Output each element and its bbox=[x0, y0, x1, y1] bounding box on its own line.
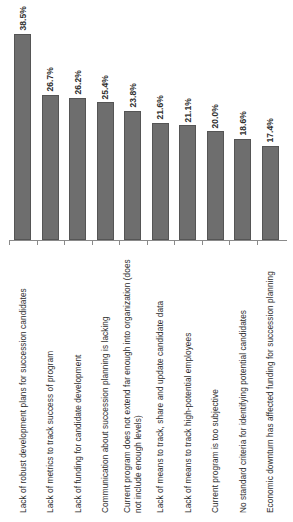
category-label-slot: Communication about succession planning … bbox=[92, 247, 120, 515]
category-label-slot: Lack of means to track high-potential em… bbox=[174, 247, 202, 515]
bar-chart: 38.5% 26.7% 26.2% 25.4% 23.8% 21.6% 21.1… bbox=[0, 0, 293, 522]
chart-left-spine bbox=[5, 6, 6, 241]
bar-group: 25.4% bbox=[92, 6, 120, 240]
bar-value-label: 26.2% bbox=[74, 70, 83, 95]
category-label-slot: No standard criteria for identifying pot… bbox=[229, 247, 257, 515]
category-label: Lack of means to track, share and update… bbox=[155, 247, 166, 513]
x-axis-ticks bbox=[9, 241, 287, 245]
bar-value-label: 18.6% bbox=[239, 111, 248, 136]
category-label: Lack of funding for candidate developmen… bbox=[73, 247, 84, 513]
category-label: Economic downturn has affected funding f… bbox=[265, 247, 276, 513]
category-label-slot: Current program is too subjective bbox=[202, 247, 230, 515]
x-tick bbox=[257, 241, 285, 245]
bar-rect bbox=[69, 98, 86, 240]
x-tick bbox=[64, 241, 92, 245]
bar-group: 23.8% bbox=[119, 6, 147, 240]
bar-group: 21.1% bbox=[174, 6, 202, 240]
x-axis-category-labels: Lack of robust development plans for suc… bbox=[9, 247, 287, 515]
x-tick bbox=[202, 241, 230, 245]
bar-group: 20.0% bbox=[202, 6, 230, 240]
category-label: Current program is too subjective bbox=[210, 247, 221, 513]
bar-value-label: 17.4% bbox=[266, 118, 275, 143]
bar-group: 21.6% bbox=[147, 6, 175, 240]
bar-value-label: 26.7% bbox=[46, 67, 55, 92]
bar-group: 17.4% bbox=[257, 6, 285, 240]
x-tick bbox=[92, 241, 120, 245]
bar-value-label: 21.1% bbox=[184, 98, 193, 123]
bar-value-label: 20.0% bbox=[211, 104, 220, 129]
category-label-slot: Lack of means to track, share and update… bbox=[147, 247, 175, 515]
bar-rect bbox=[207, 131, 224, 240]
bar-value-label: 21.6% bbox=[156, 95, 165, 120]
category-label: Lack of robust development plans for suc… bbox=[18, 247, 29, 513]
category-label-slot: Economic downturn has affected funding f… bbox=[257, 247, 285, 515]
category-label: Lack of metrics to track success of prog… bbox=[45, 247, 56, 513]
category-label-slot: Current program does not extend far enou… bbox=[119, 247, 147, 515]
bar-group: 26.7% bbox=[37, 6, 65, 240]
category-label: No standard criteria for identifying pot… bbox=[238, 247, 249, 513]
category-label: Lack of means to track high-potential em… bbox=[183, 247, 194, 513]
category-label: Current program does not extend far enou… bbox=[122, 247, 143, 513]
category-label: Communication about succession planning … bbox=[100, 247, 111, 513]
bar-rect bbox=[179, 125, 196, 240]
bar-group: 26.2% bbox=[64, 6, 92, 240]
bar-rect bbox=[262, 146, 279, 240]
bar-group: 18.6% bbox=[229, 6, 257, 240]
x-tick bbox=[147, 241, 175, 245]
bar-value-label: 38.5% bbox=[19, 6, 28, 31]
bar-rect bbox=[42, 95, 59, 240]
x-tick bbox=[37, 241, 65, 245]
category-label-slot: Lack of funding for candidate developmen… bbox=[64, 247, 92, 515]
x-tick bbox=[174, 241, 202, 245]
plot-area: 38.5% 26.7% 26.2% 25.4% 23.8% 21.6% 21.1… bbox=[9, 6, 287, 240]
bar-rect bbox=[152, 123, 169, 240]
x-tick bbox=[9, 241, 37, 245]
x-tick bbox=[119, 241, 147, 245]
bar-rect bbox=[234, 139, 251, 240]
bar-group: 38.5% bbox=[9, 6, 37, 240]
bar-rect bbox=[124, 111, 141, 240]
bar-value-label: 23.8% bbox=[129, 83, 138, 108]
x-tick bbox=[229, 241, 257, 245]
category-label-slot: Lack of robust development plans for suc… bbox=[9, 247, 37, 515]
bar-rect bbox=[14, 34, 31, 240]
category-label-slot: Lack of metrics to track success of prog… bbox=[37, 247, 65, 515]
bar-rect bbox=[97, 102, 114, 240]
bar-value-label: 25.4% bbox=[101, 75, 110, 100]
